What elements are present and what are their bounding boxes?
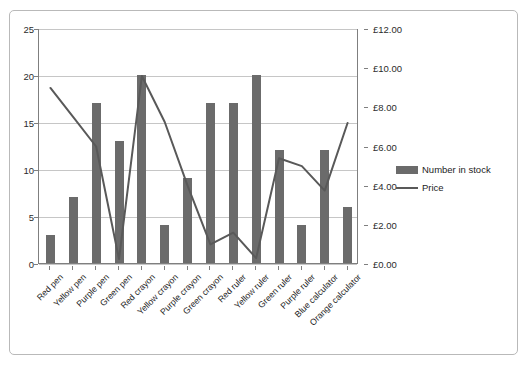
- y-axis-left-tick: 25: [4, 24, 34, 35]
- y-axis-left-tick: 15: [4, 118, 34, 129]
- x-axis-tickmark: [278, 266, 279, 270]
- x-axis-tickmark: [301, 266, 302, 270]
- y-axis-right-tickmark: [364, 107, 368, 108]
- x-axis-category-labels: Red penYellow penPurple penGreen penRed …: [38, 266, 358, 361]
- y-axis-left-tickmark: [34, 264, 38, 265]
- y-axis-right-tick: £6.00: [373, 141, 419, 152]
- x-axis-tickmark: [72, 266, 73, 270]
- x-axis-tickmark: [95, 266, 96, 270]
- y-axis-left: 0510152025: [0, 29, 34, 264]
- y-axis-right-tickmark: [364, 29, 368, 30]
- x-axis-tickmark: [255, 266, 256, 270]
- combo-chart: 0510152025 £0.00£2.00£4.00£6.00£8.00£10.…: [0, 0, 529, 367]
- x-axis-tickmark: [209, 266, 210, 270]
- y-axis-left-tick: 5: [4, 212, 34, 223]
- y-axis-right-tickmark: [364, 147, 368, 148]
- x-axis-tickmark: [187, 266, 188, 270]
- gridline: [39, 264, 357, 265]
- legend-bar-swatch-icon: [396, 166, 418, 174]
- y-axis-right: £0.00£2.00£4.00£6.00£8.00£10.00£12.00: [364, 29, 414, 264]
- y-axis-right-tickmark: [364, 68, 368, 69]
- y-axis-right-tick: £12.00: [373, 24, 419, 35]
- legend-label: Price: [422, 182, 444, 193]
- y-axis-left-tick: 0: [4, 259, 34, 270]
- y-axis-right-tickmark: [364, 264, 368, 265]
- y-axis-left-tick: 20: [4, 71, 34, 82]
- x-axis-tickmark: [232, 266, 233, 270]
- x-axis-tickmark: [347, 266, 348, 270]
- plot-area: [38, 29, 358, 264]
- x-axis-tickmark: [141, 266, 142, 270]
- line-series-price: [39, 29, 359, 264]
- x-axis-tickmark: [164, 266, 165, 270]
- legend-item: Number in stock: [396, 164, 521, 175]
- y-axis-right-tick: £8.00: [373, 102, 419, 113]
- y-axis-right-tickmark: [364, 225, 368, 226]
- x-axis-tickmark: [49, 266, 50, 270]
- y-axis-right-tickmark: [364, 186, 368, 187]
- y-axis-right-tick: £10.00: [373, 63, 419, 74]
- x-axis-tickmark: [324, 266, 325, 270]
- legend-label: Number in stock: [422, 164, 491, 175]
- legend-item: Price: [396, 182, 521, 193]
- y-axis-right-tick: £0.00: [373, 259, 419, 270]
- legend-line-swatch-icon: [396, 187, 418, 189]
- price-line: [50, 76, 347, 259]
- y-axis-right-tick: £2.00: [373, 219, 419, 230]
- chart-legend: Number in stockPrice: [396, 164, 521, 200]
- y-axis-left-tick: 10: [4, 165, 34, 176]
- x-axis-tickmark: [118, 266, 119, 270]
